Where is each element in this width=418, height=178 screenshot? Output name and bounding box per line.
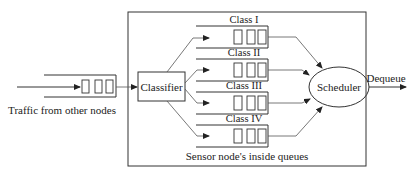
dequeue-label: Dequeue xyxy=(366,72,405,84)
input-label: Traffic from other nodes xyxy=(8,104,116,116)
traffic-queue-diagram: Sensor node's inside queues Traffic from… xyxy=(0,0,418,178)
scheduler-label: Scheduler xyxy=(317,81,361,93)
queue-label: Class I xyxy=(230,14,259,25)
input-queue xyxy=(17,75,116,97)
classifier-label: Classifier xyxy=(140,81,182,93)
queue-label: Class II xyxy=(228,47,261,58)
container-label: Sensor node's inside queues xyxy=(186,150,309,162)
queue-class-1 xyxy=(196,26,268,48)
queue-label: Class IV xyxy=(226,113,263,124)
queue-label: Class III xyxy=(226,80,262,91)
